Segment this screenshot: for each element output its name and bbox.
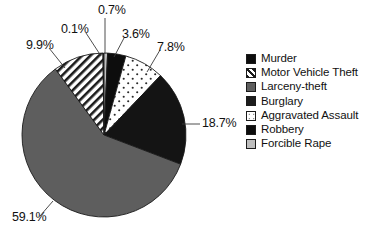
value-label-motor-vehicle-theft: 9.9%: [26, 38, 54, 52]
value-label-robbery: 3.6%: [122, 27, 150, 41]
legend-item-label: Forcible Rape: [261, 138, 331, 150]
value-label-aggravated-assault: 7.8%: [157, 40, 185, 54]
legend-item-larceny-theft[interactable]: Larceny-theft: [246, 80, 378, 94]
legend-item-label: Motor Vehicle Theft: [261, 67, 358, 79]
legend-swatch-icon: [246, 54, 256, 64]
leader-line-murder: [86, 33, 101, 56]
legend-swatch-icon: [246, 96, 256, 106]
legend-swatch-icon: [246, 68, 256, 78]
legend-swatch-icon: [246, 111, 256, 121]
legend-item-aggravated-assault[interactable]: Aggravated Assault: [246, 109, 378, 123]
legend-item-label: Larceny-theft: [261, 81, 327, 93]
legend-item-label: Aggravated Assault: [261, 110, 358, 122]
legend-item-label: Murder: [261, 53, 297, 65]
legend-item-label: Burglary: [261, 96, 303, 108]
legend-item-robbery[interactable]: Robbery: [246, 123, 378, 137]
pie-chart: 0.7% 0.1% 3.6% 9.9% 7.8% 18.7% 59.1% Mur…: [0, 0, 382, 240]
legend-item-label: Robbery: [261, 124, 304, 136]
legend-item-burglary[interactable]: Burglary: [246, 95, 378, 109]
legend-swatch-icon: [246, 139, 256, 149]
legend: MurderMotor Vehicle TheftLarceny-theftBu…: [246, 52, 378, 151]
legend-item-murder[interactable]: Murder: [246, 52, 378, 66]
pie-slices: [22, 53, 186, 217]
legend-item-motor-vehicle-theft[interactable]: Motor Vehicle Theft: [246, 66, 378, 80]
legend-item-forcible-rape[interactable]: Forcible Rape: [246, 137, 378, 151]
legend-swatch-icon: [246, 125, 256, 135]
value-label-larceny-theft: 59.1%: [12, 210, 46, 224]
value-label-burglary: 18.7%: [202, 116, 236, 130]
legend-swatch-icon: [246, 82, 256, 92]
value-label-forcible-rape: 0.7%: [98, 3, 126, 17]
value-label-murder: 0.1%: [61, 22, 89, 36]
